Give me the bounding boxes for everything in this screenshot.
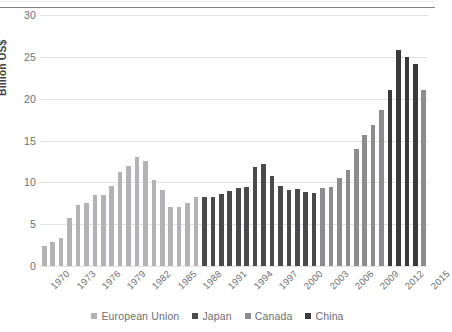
bar [261,164,266,266]
x-axis-tick-label: 1988 [200,268,223,291]
bar [152,180,157,266]
x-axis-tick-label: 1994 [251,268,274,291]
bar [405,57,410,266]
x-axis-tick-label: 1985 [175,268,198,291]
bar [84,203,89,266]
x-axis-tick-labels: 1970197319761979198219851988199119941997… [40,266,428,310]
legend-item[interactable]: China [305,310,343,322]
bar [211,197,216,266]
legend-item[interactable]: European Union [91,310,179,322]
bar [388,90,393,266]
legend-label: Japan [202,310,231,322]
legend-item[interactable]: Canada [245,310,293,322]
bar [278,186,283,266]
bar [244,187,249,266]
x-axis-tick-label: 2003 [327,268,350,291]
x-axis-tick-label: 1976 [99,268,122,291]
x-axis-tick-label: 1979 [125,268,148,291]
bar [362,135,367,266]
legend-swatch-icon [245,313,251,319]
bar [379,110,384,266]
bar [177,207,182,266]
x-axis-tick-label: 1991 [226,268,249,291]
bar [42,246,47,266]
bar [396,50,401,266]
legend-label: Canada [255,310,293,322]
x-axis-tick-label: 2012 [403,268,426,291]
bar [295,189,300,266]
bar [118,172,123,266]
bar [312,193,317,266]
bar [320,188,325,266]
y-axis-tick-label: 25 [2,52,36,62]
bar [67,218,72,266]
y-axis-tick-label: 0 [2,261,36,271]
x-axis-tick-label: 1973 [74,268,97,291]
bar [194,197,199,266]
bar [59,238,64,266]
legend-swatch-icon [192,313,198,319]
bar [168,207,173,266]
x-axis-tick-label: 1997 [276,268,299,291]
plot-area [40,15,428,266]
bar [329,187,334,266]
legend-item[interactable]: Japan [192,310,231,322]
bar [413,64,418,266]
x-axis-tick-label: 1982 [150,268,173,291]
bar [109,186,114,266]
chart-legend: European UnionJapanCanadaChina [0,310,435,322]
bar [270,176,275,266]
legend-label: China [315,310,343,322]
y-axis-tick-labels: 051015202530 [0,15,36,266]
bar [227,191,232,266]
bar [135,157,140,266]
bar [185,203,190,266]
bar [50,242,55,266]
bar [371,125,376,266]
legend-swatch-icon [305,313,311,319]
bar [337,178,342,266]
x-axis-tick-label: 2015 [428,268,451,291]
bar [160,190,165,266]
x-axis-tick-label: 2009 [378,268,401,291]
bar [202,197,207,266]
x-axis-tick-label: 2000 [302,268,325,291]
bar [287,190,292,266]
bar-series [40,15,428,266]
y-axis-tick-label: 20 [2,94,36,104]
x-axis-tick-label: 2006 [352,268,375,291]
bar [303,192,308,266]
bar [253,167,258,266]
bar [354,149,359,266]
legend-swatch-icon [91,313,97,319]
y-axis-tick-label: 15 [2,136,36,146]
bar [101,195,106,266]
legend-label: European Union [101,310,179,322]
bar [76,205,81,266]
bar [143,161,148,266]
bar [236,188,241,266]
y-axis-tick-label: 5 [2,219,36,229]
bar [126,166,131,266]
bar [93,195,98,266]
y-axis-tick-label: 30 [2,10,36,20]
bar [219,194,224,266]
bar [346,170,351,266]
bar [421,90,426,266]
x-axis-tick-label: 1970 [49,268,72,291]
y-axis-tick-label: 10 [2,177,36,187]
